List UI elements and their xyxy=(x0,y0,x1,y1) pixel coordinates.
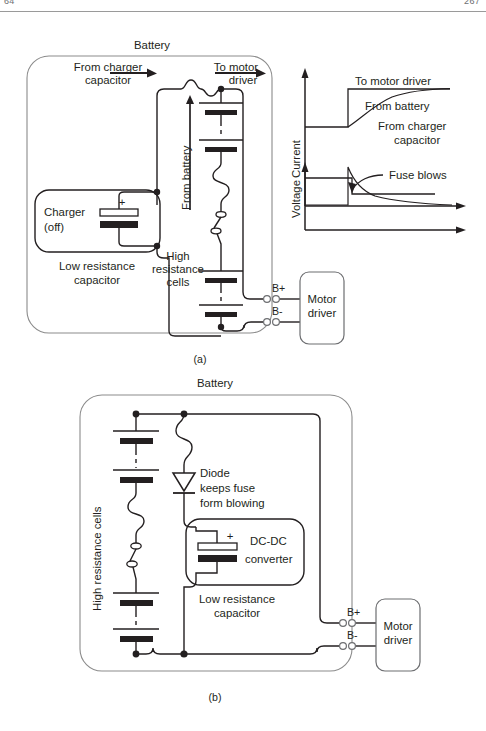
capacitor-lead-bottom xyxy=(119,228,157,246)
capacitor-plate-negative xyxy=(100,221,138,228)
figure-a-low-resistance-capacitor-line2: capacitor xyxy=(74,274,120,286)
connector-ring xyxy=(264,296,271,303)
cell-plate-negative xyxy=(120,438,153,444)
figure-a-high-resistance-cells-line2: resistance xyxy=(152,263,204,275)
current-chart-x-axis-arrow xyxy=(456,203,466,210)
figure-a-capacitor-plus: + xyxy=(119,196,126,208)
current-chart-y-label: Current xyxy=(290,139,302,178)
figure-b-caption: (b) xyxy=(209,691,222,703)
figure-a-terminal-positive: B+ xyxy=(264,282,300,302)
figure-b-low-resistance-capacitor-symbol: + xyxy=(184,527,237,654)
capacitor-plate-negative xyxy=(198,555,237,562)
figure-b-battery-label: Battery xyxy=(197,377,233,389)
voltage-chart-x-axis-arrow xyxy=(456,227,466,234)
figure-b-diode-branch-squiggle xyxy=(176,414,192,465)
figure-a: Battery From charger capacitor To motor … xyxy=(0,0,486,360)
figure-b-diode-label-line2: keeps fuse xyxy=(200,482,255,494)
figure-b-dcdc-converter-box xyxy=(186,519,304,585)
diode-icon xyxy=(173,473,195,491)
current-chart-annotation-from-battery: From battery xyxy=(365,100,430,112)
fuse-blows-label: Fuse blows xyxy=(389,169,447,181)
cell-plate-negative xyxy=(120,477,153,483)
figure-a-cell-stack xyxy=(199,89,243,331)
figure-a-charger-label-line1: Charger xyxy=(44,206,85,218)
cell-plate-negative xyxy=(120,600,153,606)
figure-a-charger-label-line2: (off) xyxy=(44,221,64,233)
figure-a-arrow-from-charger-capacitor-head xyxy=(147,69,157,78)
figure-b-fuse-element-lower xyxy=(127,561,137,567)
capacitor-plate-positive xyxy=(198,543,237,550)
figure-b-fuse-element-upper xyxy=(131,543,141,549)
figure-a-arrow-from-battery-head xyxy=(186,95,194,104)
figure-a-to-motor-driver-line2: driver xyxy=(229,74,258,86)
figure-b-high-resistance-cells-label: High resistance cells xyxy=(91,506,103,611)
connector-ring xyxy=(349,620,356,627)
figure-a-fuse-element-lower xyxy=(211,228,221,234)
figure-a-caption: (a) xyxy=(194,353,207,365)
voltage-chart-y-label: Voltage xyxy=(290,180,302,218)
figure-a-motor-driver-line1: Motor xyxy=(307,293,336,305)
capacitor-plate-positive xyxy=(100,209,138,216)
figure-b-diode-branch xyxy=(173,414,196,527)
capacitor-lead-bottom xyxy=(184,562,217,654)
figure-a-from-battery-label: From battery xyxy=(180,145,192,210)
current-chart-annotation-to-motor-driver: To motor driver xyxy=(355,75,431,87)
connector-ring xyxy=(273,296,280,303)
figure-b-wire-squiggle xyxy=(128,483,144,535)
cell-plate-negative xyxy=(120,636,153,642)
cell-plate-negative xyxy=(205,278,237,283)
figure-a-from-charger-capacitor-line2: capacitor xyxy=(85,74,131,86)
figure-a-low-resistance-capacitor-symbol: + xyxy=(100,192,157,246)
figure-b-low-resistance-capacitor-line2: capacitor xyxy=(214,607,260,619)
page-root: 64 267 Battery From charger capacitor To… xyxy=(0,0,486,731)
connector-ring xyxy=(340,643,347,650)
figure-a-terminal-positive-label: B+ xyxy=(272,282,285,294)
figure-a-high-resistance-cells-line3: cells xyxy=(167,276,190,288)
figure-a-terminal-negative: B- xyxy=(264,305,300,325)
figure-b-terminal-positive: B+ xyxy=(340,606,376,626)
diode-lead-bottom xyxy=(184,493,196,527)
figure-a-motor-driver-line2: driver xyxy=(308,307,337,319)
figure-a-terminal-negative-label: B- xyxy=(272,305,283,317)
connector-ring xyxy=(349,643,356,650)
figure-a-fuse-element-upper xyxy=(216,212,226,218)
figure-a-to-motor-driver-line1: To motor xyxy=(214,61,259,73)
cell-lead xyxy=(130,549,136,561)
figure-b-diode-label-line3: form blowing xyxy=(200,497,265,509)
figure-b-diode-label-line1: Diode xyxy=(200,467,230,479)
figure-a-battery-label: Battery xyxy=(134,39,170,51)
cell-lead xyxy=(214,217,221,228)
figure-a-low-resistance-capacitor-line1: Low resistance xyxy=(59,260,135,272)
figure-b-terminal-negative-label: B- xyxy=(347,629,358,641)
figure-b-capacitor-plus: + xyxy=(227,530,234,542)
figure-b-low-resistance-capacitor-line1: Low resistance xyxy=(199,593,275,605)
fuse-blows-annotation: Fuse blows xyxy=(348,169,447,194)
cell-lead xyxy=(133,567,136,593)
capacitor-lead-top xyxy=(196,527,217,543)
figure-a-junction-bottom xyxy=(218,324,224,330)
figure-a-high-resistance-cells-line1: High xyxy=(166,250,189,262)
current-chart-y-axis-arrow xyxy=(302,68,309,78)
current-chart-annotation-from-charger-capacitor-line1: From charger xyxy=(378,120,447,132)
connector-ring xyxy=(264,319,271,326)
figure-b: Battery xyxy=(0,371,486,731)
figure-a-junction-charger-top xyxy=(154,189,160,195)
figure-b-dcdc-line1: DC-DC xyxy=(250,535,287,547)
figure-a-arrow-to-motor-driver-head xyxy=(256,69,266,78)
figure-b-motor-driver-line1: Motor xyxy=(383,620,412,632)
cell-plate-negative xyxy=(205,312,237,317)
cell-plate-negative xyxy=(205,147,237,152)
connector-ring xyxy=(340,620,347,627)
current-chart: Current To motor driver From battery Fro… xyxy=(290,68,466,210)
current-chart-annotation-from-charger-capacitor-line2: capacitor xyxy=(394,134,440,146)
cell-plate-negative xyxy=(205,110,237,115)
figure-a-from-charger-capacitor-line1: From charger xyxy=(74,61,143,73)
figure-b-cell-stack xyxy=(113,414,159,657)
figure-a-arrow-from-battery: From battery xyxy=(180,95,194,210)
figure-b-junction-bottom xyxy=(180,650,187,657)
figure-b-dcdc-line2: converter xyxy=(245,553,293,565)
figure-b-bottom-rail xyxy=(136,646,339,654)
figure-b-motor-driver-line2: driver xyxy=(384,634,413,646)
figure-a-battery-outline xyxy=(27,56,272,333)
figure-b-terminal-negative: B- xyxy=(340,629,376,649)
